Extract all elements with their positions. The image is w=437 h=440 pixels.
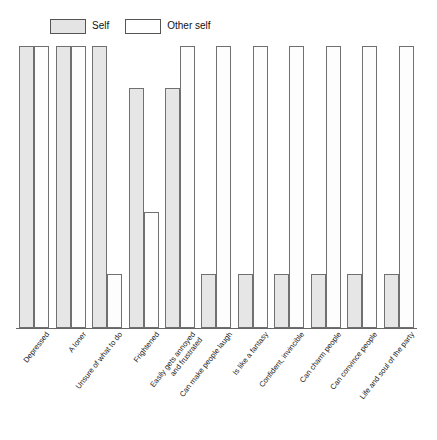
chart-canvas: Self Other self DepressedA lonerUnsure o… bbox=[0, 0, 437, 440]
bar-self bbox=[92, 46, 107, 328]
bar-self bbox=[311, 274, 326, 328]
bar-group bbox=[198, 46, 234, 328]
x-axis-tick-labels: DepressedA lonerUnsure of what to doFrig… bbox=[16, 330, 417, 438]
x-tick-label-line: A loner bbox=[66, 330, 88, 354]
bar-group bbox=[125, 46, 161, 328]
bar-self bbox=[274, 274, 289, 328]
bar-group bbox=[89, 46, 125, 328]
bar-group bbox=[308, 46, 344, 328]
bar-self bbox=[238, 274, 253, 328]
x-tick-label: Frightened bbox=[131, 330, 161, 364]
bar-other-self bbox=[289, 46, 304, 328]
x-tick-label-line: Depressed bbox=[22, 330, 52, 365]
chart-legend: Self Other self bbox=[50, 16, 211, 36]
bar-other-self bbox=[362, 46, 377, 328]
bar-other-self bbox=[399, 46, 414, 328]
bar-other-self bbox=[34, 46, 49, 328]
bar-group bbox=[381, 46, 417, 328]
legend-label-self: Self bbox=[92, 21, 109, 31]
x-tick-label: A loner bbox=[66, 330, 88, 354]
bar-other-self bbox=[180, 46, 195, 328]
bar-other-self bbox=[107, 274, 122, 328]
bar-group bbox=[271, 46, 307, 328]
legend-swatch-self-icon bbox=[50, 19, 86, 34]
bar-other-self bbox=[326, 46, 341, 328]
x-tick-label-line: Frightened bbox=[131, 330, 161, 364]
bar-group bbox=[16, 46, 52, 328]
bar-groups-container bbox=[16, 46, 417, 328]
bar-group bbox=[162, 46, 198, 328]
legend-item-self: Self bbox=[50, 19, 109, 34]
legend-label-other-self: Other self bbox=[167, 21, 210, 31]
bar-other-self bbox=[71, 46, 86, 328]
bar-self bbox=[384, 274, 399, 328]
bar-self bbox=[56, 46, 71, 328]
bar-group bbox=[235, 46, 271, 328]
bar-group bbox=[52, 46, 88, 328]
bar-other-self bbox=[144, 212, 159, 328]
x-tick-label: Depressed bbox=[22, 330, 52, 365]
bar-self bbox=[19, 46, 34, 328]
x-axis-line bbox=[16, 328, 417, 329]
legend-item-other-self: Other self bbox=[125, 19, 210, 34]
plot-area bbox=[16, 46, 417, 329]
bar-self bbox=[201, 274, 216, 328]
bar-other-self bbox=[253, 46, 268, 328]
legend-swatch-other-self-icon bbox=[125, 19, 161, 34]
x-tick-label-line: Is like a fantasy bbox=[231, 330, 271, 377]
bar-self bbox=[347, 274, 362, 328]
bar-self bbox=[129, 88, 144, 328]
x-tick-label: Is like a fantasy bbox=[231, 330, 271, 377]
bar-group bbox=[344, 46, 380, 328]
bar-self bbox=[165, 88, 180, 328]
bar-other-self bbox=[216, 46, 231, 328]
